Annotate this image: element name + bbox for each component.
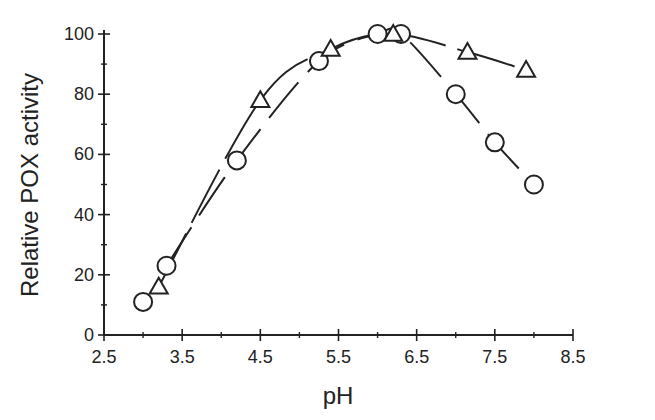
x-tick-label: 5.5 [326, 347, 351, 367]
circle-marker [158, 257, 176, 275]
y-tick-label: 80 [74, 84, 94, 104]
y-tick-label: 40 [74, 205, 94, 225]
x-tick-label: 3.5 [170, 347, 195, 367]
x-tick-label: 2.5 [91, 347, 116, 367]
y-tick-label: 100 [64, 24, 94, 44]
triangle-marker [251, 91, 269, 107]
series-line-triangles [159, 34, 526, 287]
circle-marker [447, 85, 465, 103]
circle-marker [525, 176, 543, 194]
x-axis-label: pH [323, 382, 354, 409]
triangle-marker [517, 61, 535, 77]
circle-marker [228, 151, 246, 169]
series-lines [159, 28, 534, 286]
x-tick-label: 7.5 [482, 347, 507, 367]
x-tick-label: 6.5 [404, 347, 429, 367]
triangle-marker [150, 278, 168, 294]
ph-activity-chart: 2.53.54.55.56.57.58.5020406080100 pH Rel… [0, 0, 655, 420]
series-markers [134, 25, 543, 311]
y-tick-label: 20 [74, 265, 94, 285]
y-axis-label: Relative POX activity [16, 73, 43, 297]
circle-marker [486, 133, 504, 151]
x-tick-label: 4.5 [248, 347, 273, 367]
chart-container: 2.53.54.55.56.57.58.5020406080100 pH Rel… [0, 0, 655, 420]
y-tick-label: 60 [74, 144, 94, 164]
circle-marker [134, 293, 152, 311]
x-tick-label: 8.5 [560, 347, 585, 367]
series-line-circles [167, 28, 534, 265]
axes: 2.53.54.55.56.57.58.5020406080100 [64, 24, 586, 367]
y-tick-label: 0 [84, 325, 94, 345]
